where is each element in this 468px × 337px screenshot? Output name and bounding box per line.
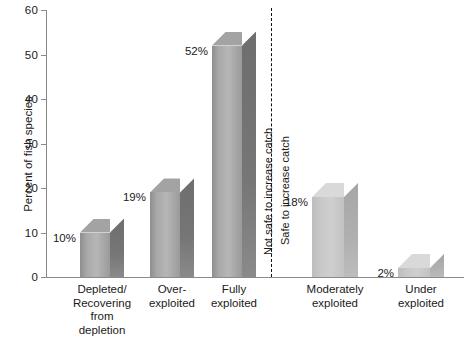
bar-side-face [180, 178, 194, 277]
y-axis-tick-label: 20 [12, 182, 38, 194]
y-axis-tick-label: 60 [12, 4, 38, 16]
bar-front-face [150, 192, 180, 277]
bar-side-face [110, 219, 124, 278]
bar-top-face [312, 183, 344, 197]
y-axis-tick-label: 50 [12, 49, 38, 61]
bar-value-label: 2% [348, 267, 394, 279]
bar-top-face [398, 254, 430, 268]
y-axis-tick-label: 30 [12, 138, 38, 150]
category-label-5: Under exploited [373, 283, 468, 310]
bar-front-face [80, 233, 110, 278]
bar-value-label: 10% [30, 232, 76, 244]
bar-1 [80, 219, 110, 278]
bar-4 [312, 183, 344, 277]
safe-to-increase-catch-label: Safe to increase catch [279, 136, 291, 245]
bar-side-face [242, 32, 256, 277]
bar-3 [212, 32, 242, 277]
bar-top-face [150, 178, 180, 192]
y-axis-tick-label: 0 [12, 271, 38, 283]
y-axis-tick-mark [41, 144, 46, 145]
bar-front-face [398, 268, 430, 277]
bar-side-face [344, 183, 358, 277]
y-axis-tick-mark [41, 277, 46, 278]
bar-5 [398, 254, 430, 277]
not-safe-to-increase-catch-label: Not safe to increase catch [262, 128, 274, 255]
y-axis-tick-mark [41, 188, 46, 189]
y-axis-tick-mark [41, 99, 46, 100]
bar-value-label: 19% [100, 191, 146, 203]
bar-front-face [312, 197, 344, 277]
bar-top-face [212, 32, 242, 46]
y-axis-tick-mark [41, 55, 46, 56]
bar-side-face [430, 254, 444, 277]
bar-top-face [80, 219, 110, 233]
y-axis-tick-mark [41, 10, 46, 11]
category-label-4: Moderately exploited [287, 283, 383, 310]
category-label-3: Fully exploited [186, 283, 282, 310]
y-axis-tick-label: 40 [12, 93, 38, 105]
x-axis-line [46, 277, 464, 278]
bar-front-face [212, 46, 242, 277]
y-axis-title: Percent of fish species [22, 64, 34, 244]
bar-2 [150, 178, 180, 277]
bar-value-label: 52% [162, 45, 208, 57]
